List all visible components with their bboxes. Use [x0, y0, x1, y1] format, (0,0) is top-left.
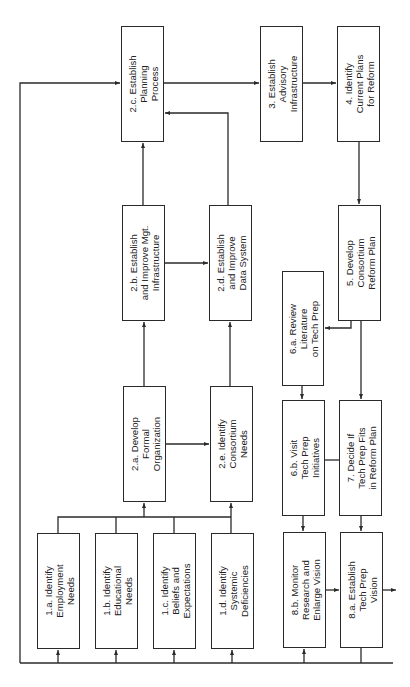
node-2d-improve-data-system: 2.d. Establish and Improve Data System — [209, 205, 252, 321]
node-label: 6.b. Visit Tech Prep Initiatives — [284, 402, 324, 514]
node-label: 3. Establish Advisory Infrastructure — [262, 28, 302, 140]
node-2a-develop-formal-organization: 2.a. Develop Formal Organization — [123, 386, 166, 502]
node-label: 4. Identify Current Plans for Reform — [339, 28, 379, 140]
node-8b-monitor-research: 8.b. Monitor Research and Enlarge Vision — [283, 532, 326, 648]
node-label: 2.d. Establish and Improve Data System — [211, 207, 251, 319]
node-label: 6.a. Review Literature on Tech Prep — [283, 273, 323, 385]
node-1c-beliefs-expectations: 1.c. Identify Beliefs and Expectations — [153, 533, 196, 649]
node-4-identify-current-plans: 4. Identify Current Plans for Reform — [337, 26, 380, 142]
node-1d-systemic-deficiencies: 1.d. Identify Systemic Deficiencies — [211, 533, 254, 649]
node-2b-improve-mgt-infrastructure: 2.b. Establish and Improve Mgt. Infrastr… — [122, 205, 165, 321]
node-1b-educational-needs: 1.b. Identify Educational Needs — [95, 533, 138, 649]
node-7-decide-tech-prep-fit: 7. Decide If Tech Prep Fits in Reform Pl… — [339, 400, 382, 516]
node-label: 1.c. Identify Beliefs and Expectations — [155, 535, 195, 647]
node-label: 5. Develop Consortium Reform Plan — [340, 207, 380, 319]
node-2e-identify-consortium-needs: 2.e. Identify Consortium Needs — [210, 386, 253, 502]
node-label: 8.b. Monitor Research and Enlarge Vision — [285, 534, 325, 646]
node-label: 1.a. Identify Employment Needs — [39, 535, 79, 647]
node-8a-establish-vision: 8.a. Establish Tech Prep Vision — [340, 532, 383, 648]
node-label: 8.a. Establish Tech Prep Vision — [342, 534, 382, 646]
node-label: 7. Decide If Tech Prep Fits in Reform Pl… — [341, 402, 381, 514]
node-label: 2.b. Establish and Improve Mgt. Infrastr… — [124, 207, 164, 319]
node-label: 1.b. Identify Educational Needs — [97, 535, 137, 647]
node-label: 2.c. Establish Planning Process — [123, 28, 163, 140]
node-label: 1.d. Identify Systemic Deficiencies — [213, 535, 253, 647]
node-5-develop-reform-plan: 5. Develop Consortium Reform Plan — [338, 205, 381, 321]
node-1a-employment-needs: 1.a. Identify Employment Needs — [37, 533, 80, 649]
node-label: 2.a. Develop Formal Organization — [125, 388, 165, 500]
node-label: 2.e. Identify Consortium Needs — [212, 388, 252, 500]
node-3-establish-advisory-infrastructure: 3. Establish Advisory Infrastructure — [260, 26, 303, 142]
node-6a-review-literature: 6.a. Review Literature on Tech Prep — [282, 271, 324, 386]
flowchart-canvas: 2.c. Establish Planning Process 3. Estab… — [0, 0, 410, 687]
node-6b-visit-initiatives: 6.b. Visit Tech Prep Initiatives — [282, 400, 325, 516]
node-2c-establish-planning-process: 2.c. Establish Planning Process — [121, 26, 164, 142]
